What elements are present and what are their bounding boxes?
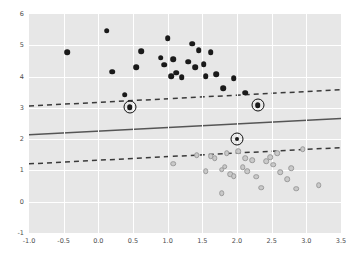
data-point-class-positive bbox=[122, 92, 128, 98]
data-point-class-positive bbox=[243, 90, 249, 96]
support-vector-center bbox=[235, 137, 239, 141]
data-point-class-positive bbox=[170, 57, 176, 63]
y-axis-tick-label: 1 bbox=[0, 166, 24, 174]
data-point-class-negative bbox=[293, 186, 299, 192]
gridline-vertical bbox=[272, 14, 273, 233]
data-point-class-positive bbox=[186, 59, 192, 65]
gridline-vertical bbox=[306, 14, 307, 233]
y-axis-tick-label: 6 bbox=[0, 10, 24, 18]
data-point-class-negative bbox=[316, 183, 322, 189]
data-point-class-negative bbox=[243, 155, 249, 161]
gridline-vertical bbox=[237, 14, 238, 233]
data-point-class-negative bbox=[249, 158, 255, 164]
support-vector-center bbox=[256, 103, 260, 107]
gridline-horizontal bbox=[29, 139, 341, 140]
y-axis-tick-label: 4 bbox=[0, 73, 24, 81]
y-axis-tick-label: 5 bbox=[0, 41, 24, 49]
x-axis-tick-label: 2.0 bbox=[232, 237, 242, 245]
gridline-vertical bbox=[168, 14, 169, 233]
data-point-class-positive bbox=[231, 75, 237, 81]
y-axis-tick-label: 3 bbox=[0, 104, 24, 112]
decision-lines bbox=[29, 14, 341, 233]
x-axis-tick-label: 0.5 bbox=[128, 237, 138, 245]
data-point-class-negative bbox=[284, 176, 290, 182]
y-axis-tick-label: -1 bbox=[0, 229, 24, 237]
data-point-class-negative bbox=[277, 169, 283, 175]
data-point-class-positive bbox=[196, 47, 202, 53]
data-point-class-negative bbox=[212, 155, 218, 161]
gridline-vertical bbox=[64, 14, 65, 233]
data-point-class-negative bbox=[203, 168, 209, 174]
support-vector-center bbox=[128, 105, 132, 109]
plot-area bbox=[29, 14, 341, 233]
data-point-class-positive bbox=[213, 71, 219, 77]
data-point-class-negative bbox=[300, 146, 306, 152]
data-point-class-positive bbox=[109, 69, 115, 75]
x-axis-tick-label: -0.5 bbox=[57, 237, 70, 245]
data-point-class-positive bbox=[173, 70, 179, 76]
data-point-class-negative bbox=[224, 150, 230, 156]
gridline-horizontal bbox=[29, 45, 341, 46]
gridline-horizontal bbox=[29, 170, 341, 171]
x-axis-tick-label: 3.5 bbox=[336, 237, 346, 245]
x-axis-tick-label: 3.0 bbox=[301, 237, 311, 245]
data-point-class-positive bbox=[220, 86, 226, 92]
data-point-class-negative bbox=[254, 174, 260, 180]
data-point-class-positive bbox=[179, 74, 185, 80]
gridline-horizontal bbox=[29, 202, 341, 203]
gridline-vertical bbox=[202, 14, 203, 233]
data-point-class-positive bbox=[189, 41, 195, 47]
x-axis-tick-label: 1.5 bbox=[197, 237, 207, 245]
data-point-class-positive bbox=[203, 73, 209, 79]
gridline-vertical bbox=[98, 14, 99, 233]
data-point-class-negative bbox=[170, 161, 176, 167]
data-point-class-negative bbox=[258, 185, 264, 191]
x-axis-tick-label: -1.0 bbox=[23, 237, 36, 245]
upper-margin bbox=[29, 90, 341, 106]
data-point-class-positive bbox=[161, 62, 167, 68]
data-point-class-negative bbox=[194, 153, 200, 159]
data-point-class-negative bbox=[267, 154, 273, 160]
decision-boundary bbox=[29, 118, 341, 134]
data-point-class-negative bbox=[245, 168, 251, 174]
data-point-class-negative bbox=[236, 148, 242, 154]
data-point-class-positive bbox=[64, 49, 70, 55]
data-point-class-positive bbox=[134, 64, 140, 70]
data-point-class-positive bbox=[104, 28, 110, 34]
data-point-class-negative bbox=[274, 150, 280, 156]
lower-margin bbox=[29, 148, 341, 164]
data-point-class-negative bbox=[219, 190, 225, 196]
y-axis-tick-label: 2 bbox=[0, 135, 24, 143]
data-point-class-positive bbox=[165, 36, 171, 42]
scatter-plot-figure: -1.0-0.50.00.51.01.52.02.53.03.5-1012345… bbox=[0, 0, 352, 266]
data-point-class-positive bbox=[139, 48, 145, 54]
x-axis-tick-label: 1.0 bbox=[162, 237, 172, 245]
data-point-class-positive bbox=[193, 64, 199, 70]
gridline-vertical bbox=[133, 14, 134, 233]
data-point-class-positive bbox=[158, 55, 164, 61]
x-axis-tick-label: 0.0 bbox=[93, 237, 103, 245]
x-axis-tick-label: 2.5 bbox=[266, 237, 276, 245]
data-point-class-negative bbox=[231, 173, 237, 179]
data-point-class-negative bbox=[222, 164, 228, 170]
data-point-class-positive bbox=[201, 61, 207, 67]
data-point-class-negative bbox=[270, 162, 276, 168]
data-point-class-negative bbox=[288, 165, 294, 171]
data-point-class-positive bbox=[208, 49, 214, 55]
y-axis-tick-label: 0 bbox=[0, 198, 24, 206]
gridline-horizontal bbox=[29, 108, 341, 109]
gridline-horizontal bbox=[29, 77, 341, 78]
